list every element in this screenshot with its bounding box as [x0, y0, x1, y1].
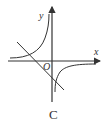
x-axis-label: x — [93, 46, 99, 57]
figure-caption: C — [49, 107, 58, 122]
y-axis-label: y — [38, 10, 44, 21]
linear-function-line — [17, 42, 64, 90]
origin-label: O — [43, 61, 50, 72]
function-graph: y x O C — [0, 0, 108, 126]
